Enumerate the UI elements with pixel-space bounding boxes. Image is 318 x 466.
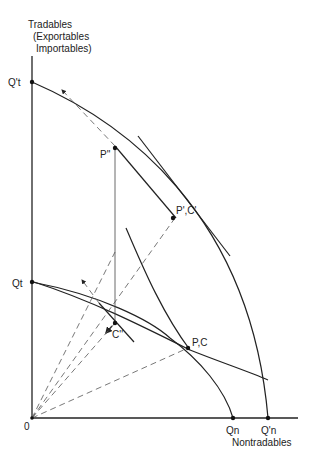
indifference-curve-pc (126, 228, 190, 350)
label-c-double-prime: C'' (112, 329, 123, 340)
point-p-prime-c-prime (171, 216, 175, 220)
point-qt-prime (30, 80, 34, 84)
ray-origin-to-p-double-prime (32, 252, 115, 418)
label-qn-prime: Q'n (261, 425, 276, 436)
point-qn-prime (266, 416, 270, 420)
label-qt: Qt (12, 278, 23, 289)
y-axis-label-3: Importables) (36, 43, 92, 54)
trade-diagram: Tradables (Exportables Importables) Nont… (0, 0, 318, 466)
ray-origin-to-c-double-prime (32, 323, 115, 418)
origin-point (30, 416, 34, 420)
curve-top-segment (115, 146, 176, 218)
y-axis-label-2: (Exportables (33, 31, 89, 42)
ray-origin-to-p-prime (32, 218, 175, 418)
label-p-double-prime: P'' (100, 149, 111, 160)
point-qt (30, 280, 34, 284)
inner-indifference-curve (34, 282, 268, 380)
ray-origin-to-pc (32, 348, 188, 418)
x-axis-label: Nontradables (232, 437, 291, 448)
price-line-p-prime (138, 136, 230, 256)
inner-ppf-curve (32, 282, 233, 418)
y-axis-label-1: Tradables (28, 19, 72, 30)
point-qn (231, 416, 235, 420)
point-c-double-prime (113, 321, 117, 325)
outer-ppf-curve (32, 82, 268, 418)
label-p-prime-c-prime: P',C' (176, 205, 197, 216)
label-qn: Qn (226, 425, 239, 436)
price-line-p-double-prime (62, 90, 115, 146)
label-qt-prime: Q't (8, 77, 21, 88)
dashed-arrow-c-double-prime (82, 280, 99, 303)
label-p-c: P,C (192, 337, 207, 348)
point-p-double-prime (113, 146, 117, 150)
origin-label: 0 (24, 421, 30, 432)
point-p-c (186, 346, 190, 350)
